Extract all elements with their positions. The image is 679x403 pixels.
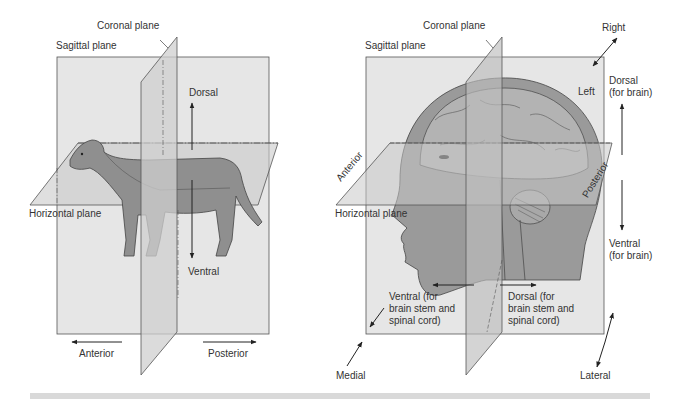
label-sagittal-plane-right: Sagittal plane <box>365 40 426 52</box>
label-lateral: Lateral <box>580 370 611 382</box>
coronal-plane-left <box>141 37 177 375</box>
left-panel <box>30 37 278 375</box>
label-dorsal-left: Dorsal <box>189 87 218 99</box>
label-coronal-plane-left: Coronal plane <box>97 20 159 32</box>
label-ventral-brain: Ventral (for brain) <box>609 238 652 262</box>
footer-bar <box>30 393 650 399</box>
label-anterior-left: Anterior <box>79 348 114 360</box>
label-posterior-left: Posterior <box>208 348 248 360</box>
label-right: Right <box>602 22 625 34</box>
label-coronal-plane-right: Coronal plane <box>423 20 485 32</box>
label-ventral-brainstem: Ventral (for brain stem and spinal cord) <box>389 291 455 327</box>
label-horizontal-plane-left: Horizontal plane <box>29 208 101 220</box>
label-ventral-left: Ventral <box>188 266 219 278</box>
label-dorsal-brainstem: Dorsal (for brain stem and spinal cord) <box>508 291 574 327</box>
label-left: Left <box>578 86 595 98</box>
coronal-plane-right <box>466 37 502 375</box>
label-dorsal-brain: Dorsal (for brain) <box>609 75 652 99</box>
label-horizontal-plane-right: Horizontal plane <box>335 208 407 220</box>
anatomical-planes-diagram <box>0 0 679 403</box>
label-sagittal-plane-left: Sagittal plane <box>56 40 117 52</box>
label-medial: Medial <box>336 370 365 382</box>
